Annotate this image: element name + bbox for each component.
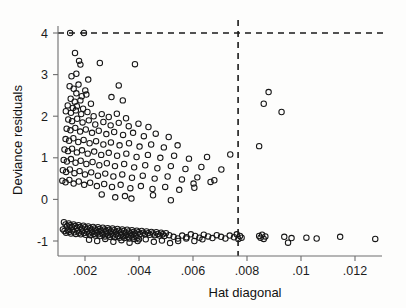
data-point [266, 89, 271, 94]
data-point [109, 94, 114, 99]
data-point [120, 172, 125, 177]
data-point [97, 163, 102, 168]
x-tick-label: .012 [343, 264, 367, 278]
data-point [128, 185, 133, 190]
x-tick-label: .01 [292, 264, 309, 278]
data-point [129, 196, 134, 201]
data-point [282, 234, 287, 239]
data-point [89, 170, 94, 175]
data-point [85, 151, 90, 156]
data-point [95, 173, 100, 178]
data-point [136, 121, 141, 126]
data-point [79, 148, 84, 153]
data-point [148, 142, 153, 147]
data-point [162, 184, 167, 189]
y-tick-label: 2 [41, 110, 48, 124]
data-point [132, 61, 137, 66]
data-point [158, 155, 163, 160]
data-point [93, 122, 98, 127]
data-point [113, 195, 118, 200]
data-point [129, 175, 134, 180]
data-point [86, 118, 91, 123]
data-point [96, 128, 101, 133]
data-point [86, 77, 91, 82]
data-point [82, 172, 87, 177]
data-point [76, 179, 81, 184]
data-point [152, 176, 157, 181]
data-point [279, 109, 284, 114]
data-point [60, 168, 65, 173]
data-point [145, 152, 150, 157]
data-point [289, 235, 294, 240]
data-point [101, 181, 106, 186]
data-point [99, 152, 104, 157]
data-point [87, 180, 92, 185]
data-point [111, 174, 116, 179]
data-point [167, 240, 172, 245]
data-point [314, 236, 319, 241]
data-point [60, 178, 65, 183]
data-point [120, 98, 125, 103]
data-point [103, 171, 108, 176]
y-axis-title: Deviance residuals [10, 85, 25, 195]
data-point [204, 154, 209, 159]
data-point [114, 111, 119, 116]
data-point [72, 50, 77, 55]
data-point [150, 186, 155, 191]
data-point [179, 177, 184, 182]
data-point [150, 193, 155, 198]
x-tick-label: .004 [127, 264, 151, 278]
data-point [97, 60, 102, 65]
data-point [108, 123, 113, 128]
data-point [72, 170, 77, 175]
data-point [91, 149, 96, 154]
data-point [79, 111, 84, 116]
data-point [106, 150, 111, 155]
data-point [74, 116, 79, 121]
data-point [155, 166, 160, 171]
data-point [76, 139, 81, 144]
x-tick-label: .002 [73, 264, 97, 278]
y-tick-label: 3 [41, 68, 48, 82]
data-point [63, 109, 68, 114]
data-point [106, 114, 111, 119]
x-tick-label: .006 [181, 264, 205, 278]
data-point [94, 238, 99, 243]
data-point [261, 101, 266, 106]
data-point [73, 160, 78, 165]
plot-points-layer [60, 30, 378, 245]
data-point [228, 152, 233, 157]
data-point [140, 173, 145, 178]
data-point [143, 163, 148, 168]
data-point [71, 181, 76, 186]
data-point [337, 234, 342, 239]
data-point [74, 150, 79, 155]
data-point [74, 91, 79, 96]
data-point [87, 141, 92, 146]
data-point [111, 129, 116, 134]
data-point [373, 236, 378, 241]
x-axis-title: Hat diagonal [209, 285, 282, 300]
data-point [101, 119, 106, 124]
x-tick-label: .008 [235, 264, 259, 278]
data-point [168, 163, 173, 168]
data-point [71, 136, 76, 141]
data-point [108, 140, 113, 145]
data-point [61, 157, 66, 162]
data-point [84, 161, 89, 166]
data-point [69, 146, 74, 151]
data-point [81, 182, 86, 187]
data-point [73, 125, 78, 130]
data-point [85, 109, 90, 114]
data-point [171, 153, 176, 158]
data-point [126, 123, 131, 128]
data-point [166, 134, 171, 139]
data-point [130, 130, 135, 135]
deviance-residuals-vs-hat-diagonal-plot: .002.004.006.008.01.012-101234 Hat diago… [0, 0, 406, 308]
data-point [199, 164, 204, 169]
data-point [186, 156, 191, 161]
data-point [151, 239, 156, 244]
data-point [177, 187, 182, 192]
data-point [124, 151, 129, 156]
data-point [161, 145, 166, 150]
